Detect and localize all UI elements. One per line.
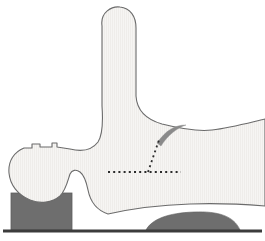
- anatomical-tracing-svg: [0, 0, 265, 241]
- figure-root: [0, 0, 265, 241]
